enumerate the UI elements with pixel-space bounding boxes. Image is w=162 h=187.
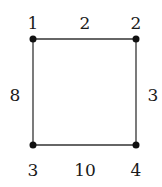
node-4 <box>133 142 140 149</box>
edge-weight-2-4: 3 <box>148 85 159 105</box>
graph-diagram: 1 2 3 4 2 8 3 10 <box>0 0 162 187</box>
node-label-4: 4 <box>131 160 142 180</box>
node-label-1: 1 <box>28 13 39 33</box>
node-label-2: 2 <box>131 13 142 33</box>
node-2 <box>133 36 140 43</box>
edge-weight-1-2: 2 <box>80 13 91 33</box>
edge-weight-1-3: 8 <box>10 85 21 105</box>
node-label-3: 3 <box>28 160 39 180</box>
node-1 <box>30 36 37 43</box>
edge-weight-3-4: 10 <box>74 160 96 180</box>
node-3 <box>30 142 37 149</box>
